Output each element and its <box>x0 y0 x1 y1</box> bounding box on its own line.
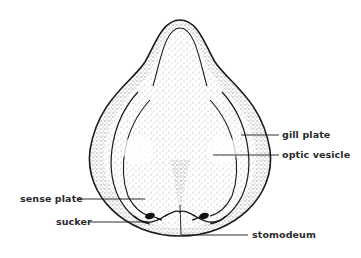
label-sucker: sucker <box>56 216 92 227</box>
label-gill-plate: gill plate <box>282 129 330 140</box>
optic-vesicle-right <box>207 135 237 165</box>
optic-vesicle-left <box>123 135 153 165</box>
label-optic-vesicle: optic vesicle <box>282 149 350 160</box>
label-sense-plate: sense plate <box>20 193 83 204</box>
label-stomodeum: stomodeum <box>252 229 316 240</box>
